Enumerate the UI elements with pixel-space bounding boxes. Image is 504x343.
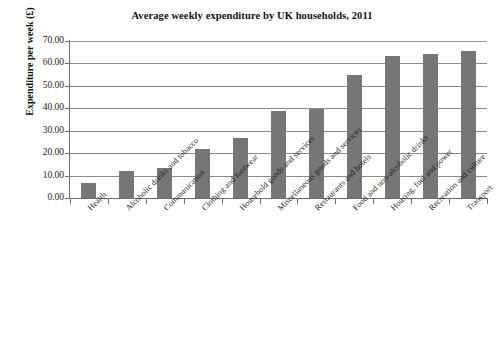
y-tick-label: 20.00 <box>8 147 64 157</box>
bar <box>119 171 134 198</box>
y-tick-label: 60.00 <box>8 57 64 67</box>
y-tick-label: 70.00 <box>8 35 64 45</box>
gridline <box>70 41 487 42</box>
x-tick-mark <box>297 199 298 204</box>
x-tick-mark <box>335 199 336 204</box>
bar <box>309 109 324 198</box>
x-tick-mark <box>373 199 374 204</box>
x-tick-mark <box>411 199 412 204</box>
bar-chart: Average weekly expenditure by UK househo… <box>0 0 504 343</box>
x-tick-mark <box>184 199 185 204</box>
y-tick-label: 30.00 <box>8 125 64 135</box>
x-tick-mark <box>146 199 147 204</box>
y-tick-label: 0.00 <box>8 192 64 202</box>
y-tick-label: 40.00 <box>8 102 64 112</box>
x-tick-mark <box>70 199 71 204</box>
x-tick-mark <box>260 199 261 204</box>
bar <box>271 111 286 198</box>
y-tick-label: 10.00 <box>8 170 64 180</box>
x-tick-mark <box>222 199 223 204</box>
x-tick-mark <box>449 199 450 204</box>
x-tick-mark <box>487 199 488 204</box>
x-tick-mark <box>108 199 109 204</box>
y-tick-label: 50.00 <box>8 80 64 90</box>
